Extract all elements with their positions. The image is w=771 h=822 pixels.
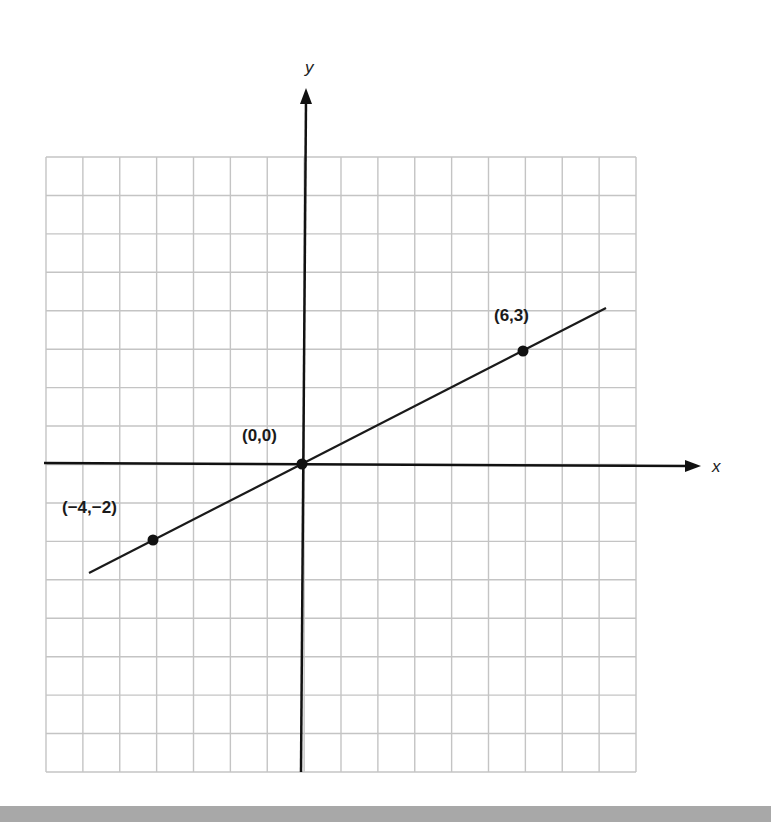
point-label-origin: (0,0) — [242, 426, 277, 446]
point-neg4-neg2 — [148, 535, 159, 546]
x-axis-arrow-icon — [685, 460, 701, 472]
coordinate-plane — [0, 0, 771, 806]
y-axis — [300, 88, 312, 772]
plotted-line — [89, 308, 606, 573]
point-6-3 — [518, 346, 529, 357]
y-axis-arrow-icon — [300, 88, 312, 104]
point-label-6-3: (6,3) — [494, 306, 529, 326]
x-axis — [44, 460, 701, 472]
point-label-neg4-neg2: (−4,−2) — [62, 498, 117, 518]
x-axis-label: x — [712, 457, 721, 477]
bottom-band — [0, 806, 771, 822]
point-origin — [297, 459, 308, 470]
y-axis-label: y — [305, 58, 314, 78]
